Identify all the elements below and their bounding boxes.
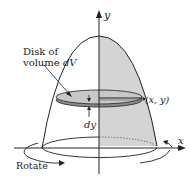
rotate-arrowhead-icon: [59, 160, 65, 166]
disk-label-line2: volume dV: [22, 57, 78, 68]
y-axis-label: y: [103, 9, 111, 22]
rotate-arrowhead-right-icon: [163, 140, 168, 145]
base-ellipse-back-left: [42, 137, 99, 148]
diagram-canvas: y x Disk of volume dV (x, y) dy Rotate: [0, 0, 191, 179]
solid-of-revolution-diagram: y x Disk of volume dV (x, y) dy Rotate: [0, 0, 191, 179]
disk-label-line1: Disk of: [23, 46, 60, 57]
x-axis-label: x: [178, 135, 184, 146]
rotate-label: Rotate: [16, 160, 48, 171]
rotate-arrow-right: [140, 150, 170, 163]
disk-pointer-line: [44, 65, 70, 95]
dy-label: dy: [84, 119, 96, 130]
point-label: (x, y): [145, 94, 169, 105]
y-axis-arrow-icon: [96, 10, 102, 18]
